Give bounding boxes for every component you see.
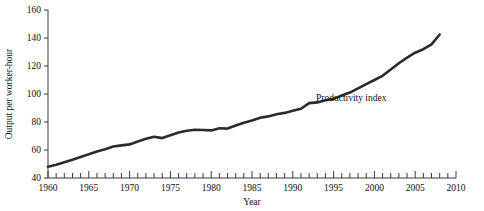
y-tick-label: 140: [27, 33, 42, 43]
y-tick-label: 120: [27, 61, 42, 71]
x-tick-label: 2005: [406, 183, 425, 193]
x-tick-label: 1975: [161, 183, 180, 193]
productivity-chart: 4060801001201401601960196519701975198019…: [0, 0, 484, 211]
x-tick-label: 1970: [120, 183, 139, 193]
y-tick-label: 160: [27, 5, 42, 15]
x-tick-label: 1980: [202, 183, 221, 193]
x-tick-label: 1995: [324, 183, 343, 193]
y-tick-label: 40: [32, 173, 42, 183]
x-tick-label: 2010: [447, 183, 466, 193]
y-tick-label: 60: [32, 145, 42, 155]
y-axis-title: Output per worker-hour: [4, 48, 14, 139]
x-tick-label: 1985: [243, 183, 262, 193]
series-annotation-label: Productivity index: [316, 93, 386, 103]
y-tick-label: 80: [32, 117, 42, 127]
x-tick-label: 1965: [79, 183, 98, 193]
x-tick-label: 1960: [39, 183, 58, 193]
x-tick-label: 2000: [365, 183, 384, 193]
y-tick-label: 100: [27, 89, 42, 99]
x-axis-title: Year: [243, 197, 261, 207]
x-tick-label: 1990: [283, 183, 302, 193]
chart-canvas: 4060801001201401601960196519701975198019…: [0, 0, 484, 211]
